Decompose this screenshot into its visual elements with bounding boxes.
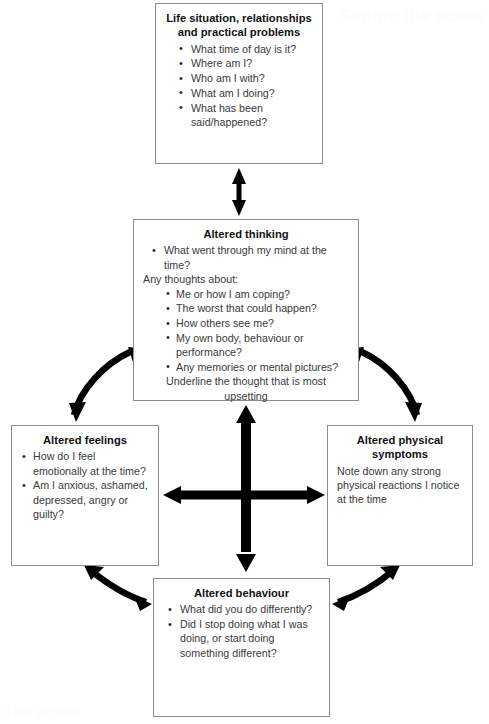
box-altered-physical-symptoms-title: Altered physical symptoms xyxy=(337,433,463,462)
list-item: Did I stop doing what I was doing, or st… xyxy=(167,617,320,660)
box-life-situation-title-line1: Life situation, relationships xyxy=(166,12,311,24)
list-item: My own body, behaviour or performance? xyxy=(165,331,349,359)
box-altered-thinking-lead-list: What went through my mind at the time? xyxy=(143,243,349,271)
box-altered-feelings[interactable]: Altered feelings How do I feel emotional… xyxy=(11,425,159,566)
list-item: The worst that could happen? xyxy=(165,301,349,315)
list-item: Me or how I am coping? xyxy=(165,287,349,301)
list-item: What did you do differently? xyxy=(167,602,320,616)
list-item: What time of day is it? xyxy=(178,42,313,56)
box-altered-thinking-list: Me or how I am coping? The worst that co… xyxy=(143,287,349,374)
box-altered-feelings-list: How do I feel emotionally at the time? A… xyxy=(21,449,149,521)
connector-feelings-behaviour xyxy=(84,565,152,611)
box-altered-behaviour-title: Altered behaviour xyxy=(163,586,320,600)
box-altered-thinking-title: Altered thinking xyxy=(143,227,349,241)
list-item: How others see me? xyxy=(165,316,349,330)
box-life-situation[interactable]: Life situation, relationships and practi… xyxy=(155,3,323,164)
connector-situation-thinking xyxy=(232,168,246,216)
box-life-situation-title: Life situation, relationships and practi… xyxy=(165,11,313,40)
box-altered-thinking-prompt: Any thoughts about: xyxy=(143,272,349,286)
connector-central-vertical xyxy=(236,405,256,572)
box-altered-behaviour[interactable]: Altered behaviour What did you do differ… xyxy=(153,578,330,717)
box-altered-thinking[interactable]: Altered thinking What went through my mi… xyxy=(133,219,359,401)
box-life-situation-list: What time of day is it? Where am I? Who … xyxy=(165,42,313,129)
list-item: Am I anxious, ashamed, depressed, angry … xyxy=(21,478,149,521)
list-item: How do I feel emotionally at the time? xyxy=(21,449,149,477)
list-item: What went through my mind at the time? xyxy=(151,243,349,271)
list-item: Any memories or mental pictures? xyxy=(165,360,349,374)
list-item: Who am I with? xyxy=(178,71,313,85)
box-life-situation-title-line2: and practical problems xyxy=(178,26,300,38)
list-item: Where am I? xyxy=(178,56,313,70)
box-altered-physical-symptoms[interactable]: Altered physical symptoms Note down any … xyxy=(327,425,473,566)
list-item: What has been said/happened? xyxy=(178,101,313,129)
box-altered-thinking-footer: Underline the thought that is most upset… xyxy=(143,374,349,402)
list-item: What am I doing? xyxy=(178,86,313,100)
box-altered-feelings-title: Altered feelings xyxy=(21,433,149,447)
connector-physical-behaviour xyxy=(332,565,400,611)
box-altered-behaviour-list: What did you do differently? Did I stop … xyxy=(163,602,320,659)
box-altered-physical-symptoms-body: Note down any strong physical reactions … xyxy=(337,464,463,507)
five-areas-diagram: Setting the scene The scene xyxy=(0,0,489,724)
